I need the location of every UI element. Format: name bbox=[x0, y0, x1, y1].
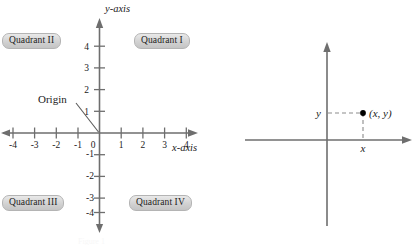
point-label: (x, y) bbox=[369, 107, 392, 120]
x-tick-label: 1 bbox=[119, 140, 124, 150]
point-label-close: ) bbox=[387, 107, 392, 120]
y-axis-arrowhead-up bbox=[323, 42, 330, 52]
x-tick-label: -4 bbox=[9, 140, 17, 150]
y-projection-label: y bbox=[315, 107, 321, 119]
y-axis-arrowhead-up bbox=[96, 18, 103, 28]
quadrant-label-text: Quadrant II bbox=[9, 36, 54, 46]
origin-label: Origin bbox=[38, 93, 67, 105]
quadrant-label-text: Quadrant III bbox=[9, 198, 57, 208]
x-axis-label: x-axis bbox=[171, 142, 197, 153]
x-axis-arrowhead-left bbox=[1, 129, 10, 136]
x-tick-label: -3 bbox=[31, 140, 39, 150]
panel-ordered-pair: (x, y) y x Figure 2 bbox=[210, 0, 415, 245]
y-axis-tick-labels: 4 3 2 1 -1 -2 -3 -4 bbox=[84, 42, 94, 218]
quadrant-label-iii: Quadrant III bbox=[2, 195, 64, 211]
quadrant-label-iv: Quadrant IV bbox=[129, 195, 192, 211]
figure-canvas: -4 -3 -2 -1 0 1 2 3 4 bbox=[0, 0, 415, 245]
y-axis-group bbox=[96, 18, 103, 233]
y-tick-label: -1 bbox=[86, 149, 94, 159]
y-tick-label: 3 bbox=[84, 63, 89, 73]
y-tick-label: -2 bbox=[86, 171, 94, 181]
x-axis-group bbox=[245, 136, 412, 144]
y-tick-label: 2 bbox=[84, 85, 89, 95]
y-axis-label: y-axis bbox=[104, 3, 130, 14]
panel-rectangular-coordinate-system: -4 -3 -2 -1 0 1 2 3 4 bbox=[0, 0, 210, 245]
quadrant-label-text: Quadrant IV bbox=[136, 198, 185, 208]
y-tick-label: -4 bbox=[86, 208, 94, 218]
y-tick-label: -3 bbox=[86, 193, 94, 203]
quadrant-label-ii: Quadrant II bbox=[2, 33, 61, 49]
x-axis-arrowhead-right bbox=[402, 136, 412, 144]
quadrant-label-i: Quadrant I bbox=[134, 33, 190, 49]
x-tick-label: -2 bbox=[52, 140, 60, 150]
quadrant-label-text: Quadrant I bbox=[141, 36, 183, 46]
figure-caption-left: Figure 1 bbox=[78, 237, 105, 245]
x-axis-arrowhead-right bbox=[188, 129, 198, 137]
y-tick-label: 4 bbox=[84, 42, 89, 52]
x-tick-label: -1 bbox=[74, 140, 82, 150]
y-axis-group bbox=[323, 42, 330, 226]
x-tick-label: 3 bbox=[162, 140, 167, 150]
x-tick-label: 2 bbox=[141, 140, 146, 150]
plotted-point bbox=[360, 110, 366, 116]
x-projection-label: x bbox=[360, 142, 366, 154]
ordered-pair-svg: (x, y) y x bbox=[210, 0, 415, 245]
y-axis-arrowhead-down bbox=[96, 224, 103, 233]
